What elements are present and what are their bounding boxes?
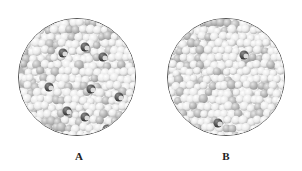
sphere-packing-b (168, 19, 285, 136)
panel-b-circle (167, 18, 285, 136)
sphere-packing-a (19, 19, 136, 136)
panel-a-circle (18, 18, 136, 136)
panel-b-label: B (216, 150, 236, 162)
dark-particle (103, 125, 112, 134)
panel-a-label: A (69, 150, 89, 162)
dark-particle (250, 131, 259, 137)
